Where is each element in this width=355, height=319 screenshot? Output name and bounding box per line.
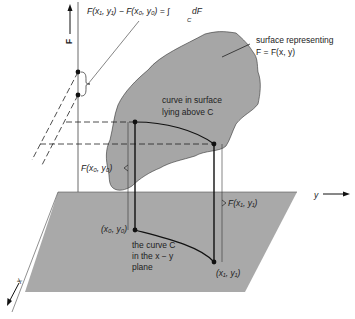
plane-curve-label-1: the curve C bbox=[132, 240, 175, 250]
formula-sub: C bbox=[187, 17, 192, 23]
x-arrow-icon bbox=[9, 283, 19, 302]
formula-leader bbox=[88, 21, 139, 84]
y-arrowhead-icon bbox=[343, 192, 350, 197]
curve-surface-label-1: curve in surface bbox=[162, 95, 222, 105]
curve-surface-label-2: lying above C bbox=[162, 107, 214, 117]
f-axis-point-0 bbox=[76, 93, 81, 98]
p1-label: (x₁, y₁) bbox=[216, 268, 240, 278]
f-axis-label: F bbox=[64, 39, 74, 44]
formula-lhs: F(x₁, y₁) − F(x₀, y₀) = ∫ bbox=[87, 6, 170, 16]
plane-curve-label-2: in the x − y bbox=[132, 251, 174, 261]
plane-point-1 bbox=[212, 260, 217, 265]
f-arrowhead-icon bbox=[68, 4, 73, 11]
f-axis-point-1 bbox=[76, 70, 81, 75]
p0-label: (x₀, y₀) bbox=[101, 224, 127, 234]
plane-point-0 bbox=[133, 228, 138, 233]
y-axis-label: y bbox=[313, 190, 319, 200]
dash-diag-1 bbox=[32, 72, 78, 160]
surface-label-2: F = F(x, y) bbox=[256, 47, 295, 57]
F1-label: F(x₁, y₁) bbox=[228, 198, 258, 208]
surface-label-1: surface representing bbox=[256, 35, 334, 45]
formula-rhs: dF bbox=[192, 6, 203, 16]
plane-curve-label-3: plane bbox=[132, 262, 153, 272]
line-integral-diagram: F(x₁, y₁) − F(x₀, y₀) = ∫ C dF surface r… bbox=[0, 0, 355, 319]
x-axis-label: x bbox=[13, 276, 25, 286]
F0-label: F(x₀, y₀) bbox=[81, 163, 112, 173]
f-axis-brace bbox=[81, 72, 90, 96]
x-arrowhead-icon bbox=[7, 298, 12, 306]
